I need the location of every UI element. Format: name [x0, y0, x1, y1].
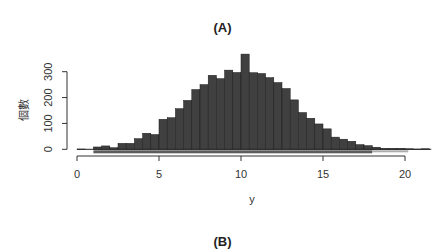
- x-axis-label: y: [249, 193, 255, 205]
- next-chart-title: (B): [0, 234, 445, 249]
- y-tick-label: 100: [42, 114, 54, 132]
- rug-marks-tail: [372, 150, 408, 152]
- x-tick-label: 5: [156, 168, 162, 180]
- histogram-bar: [323, 129, 331, 149]
- histogram-bar: [225, 70, 233, 149]
- y-axis-label: 個數: [18, 99, 30, 121]
- histogram-bar: [134, 139, 142, 150]
- histogram-bar: [167, 118, 175, 150]
- x-tick-label: 0: [74, 168, 80, 180]
- histogram-bar: [282, 89, 290, 150]
- histogram-bar: [192, 90, 200, 150]
- histogram-bar: [257, 74, 265, 150]
- rug-marks: [93, 150, 372, 153]
- x-tick-label: 20: [399, 168, 411, 180]
- histogram-bar: [208, 75, 216, 149]
- histogram-bar: [290, 100, 298, 149]
- histogram-bar: [151, 135, 159, 150]
- histogram-bar: [307, 118, 315, 149]
- histogram-bar: [143, 133, 151, 149]
- x-tick-label: 10: [235, 168, 247, 180]
- histogram-bar: [102, 146, 110, 149]
- histogram-bar: [315, 124, 323, 149]
- histogram-bar: [249, 73, 257, 150]
- histogram-bar: [184, 100, 192, 149]
- histogram-bar: [175, 109, 183, 150]
- y-tick-label: 0: [42, 146, 54, 152]
- x-tick-label: 15: [317, 168, 329, 180]
- histogram-bar: [216, 79, 224, 150]
- histogram-bar: [348, 141, 356, 149]
- histogram-bar: [126, 143, 134, 149]
- histogram-bar: [118, 143, 126, 149]
- histogram-bar: [364, 146, 372, 150]
- histogram-bar: [274, 83, 282, 150]
- histogram-bar: [331, 137, 339, 149]
- histogram-bar: [159, 119, 167, 149]
- histogram-bar: [356, 145, 364, 150]
- y-tick-label: 200: [42, 88, 54, 106]
- histogram-bar: [241, 54, 249, 149]
- histogram-bar: [200, 85, 208, 150]
- histogram-bar: [233, 72, 241, 149]
- histogram-bar: [339, 139, 347, 149]
- y-tick-label: 300: [42, 63, 54, 81]
- histogram-bar: [266, 78, 274, 150]
- histogram-bar: [298, 113, 306, 150]
